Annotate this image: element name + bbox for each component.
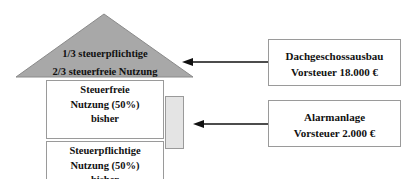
room-label: Steuerpflichtige [47, 144, 163, 159]
room-label: bisher [47, 173, 163, 179]
room-tax-free: Steuerfreie Nutzung (50%) bisher [46, 80, 164, 139]
info-box-alarmanlage: Alarmanlage Vorsteuer 2.000 € [268, 100, 401, 147]
room-taxable: Steuerpflichtige Nutzung (50%) bisher [46, 141, 164, 179]
info-title: Alarmanlage [269, 109, 400, 125]
arrow-alarmanlage [193, 120, 268, 128]
room-label: Steuerfreie [47, 83, 163, 98]
info-value: Vorsteuer 2.000 € [269, 125, 400, 141]
info-value: Vorsteuer 18.000 € [269, 64, 400, 80]
roof-label: 1/3 steuerpflichtige 2/3 steuerfreie Nut… [40, 45, 170, 81]
room-label: Nutzung (50%) [47, 98, 163, 113]
alarm-system-bar [165, 96, 184, 149]
info-title: Dachgeschossausbau [269, 48, 400, 64]
roof-line-2: 2/3 steuerfreie Nutzung [40, 63, 170, 81]
arrow-dachgeschoss [182, 58, 268, 66]
roof-line-1: 1/3 steuerpflichtige [40, 45, 170, 63]
room-label: bisher [47, 112, 163, 127]
room-label: Nutzung (50%) [47, 159, 163, 174]
info-box-dachgeschossausbau: Dachgeschossausbau Vorsteuer 18.000 € [268, 39, 401, 86]
